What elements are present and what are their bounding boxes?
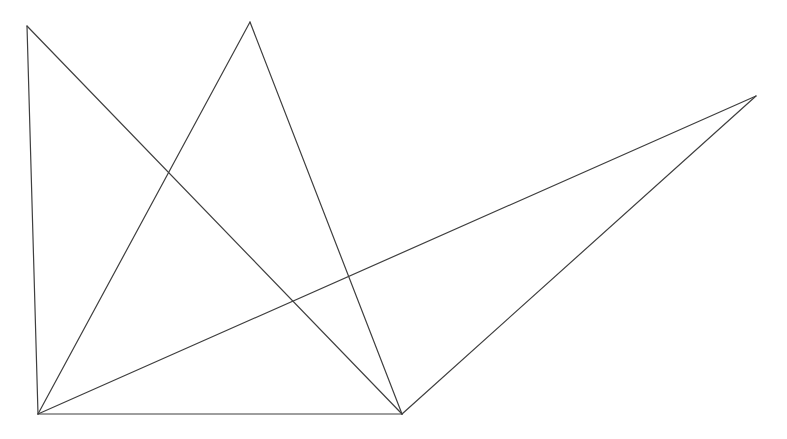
line-figure-svg [0, 0, 787, 439]
figure-canvas [0, 0, 787, 439]
canvas-background [0, 0, 787, 439]
